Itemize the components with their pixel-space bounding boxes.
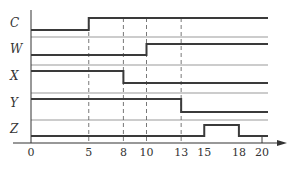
- tick-label-5: 5: [85, 146, 92, 159]
- tick-label-0: 0: [28, 146, 35, 159]
- waveform-x: [31, 71, 268, 83]
- timing-diagram: CWXYZ 0581013151820: [0, 0, 293, 169]
- signal-label-c: C: [10, 16, 19, 30]
- signal-label-w: W: [10, 42, 24, 56]
- waveform-z: [31, 125, 268, 136]
- waveform-y: [31, 99, 268, 112]
- tick-label-13: 13: [174, 146, 188, 159]
- waveform-c: [31, 18, 268, 30]
- tick-label-18: 18: [232, 146, 246, 159]
- signal-label-z: Z: [9, 122, 19, 136]
- tick-label-8: 8: [120, 146, 127, 159]
- signal-label-y: Y: [10, 96, 19, 110]
- signal-labels: CWXYZ: [9, 16, 24, 136]
- axis-arrow-icon: [277, 140, 287, 146]
- tick-label-20: 20: [255, 146, 269, 159]
- signal-label-x: X: [9, 69, 19, 83]
- waveform-w: [31, 44, 268, 55]
- time-tick-labels: 0581013151820: [28, 146, 270, 159]
- tick-label-15: 15: [197, 146, 211, 159]
- tick-label-10: 10: [140, 146, 154, 159]
